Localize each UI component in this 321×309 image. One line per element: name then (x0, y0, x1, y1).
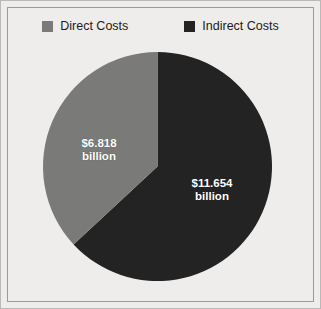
slice-label-indirect-costs: $11.654 billion (172, 177, 252, 203)
slice-label-indirect-unit: billion (195, 190, 229, 202)
pie-slices-group (43, 52, 272, 281)
slice-label-direct-value: $6.818 (81, 137, 116, 149)
slice-label-direct-costs: $6.818 billion (62, 137, 136, 163)
slice-label-direct-unit: billion (82, 150, 116, 162)
pie-plot-area: $6.818 billion $11.654 billion (0, 0, 321, 309)
slice-label-indirect-value: $11.654 (192, 177, 233, 189)
pie-chart-figure: Direct Costs Indirect Costs $6.818 billi… (0, 0, 321, 309)
pie-svg (0, 0, 321, 309)
